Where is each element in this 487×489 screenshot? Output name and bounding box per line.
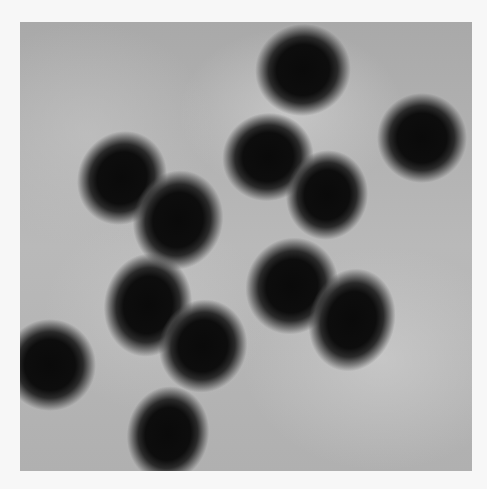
- particle: [377, 93, 467, 183]
- particle: [245, 22, 362, 127]
- particle: [119, 380, 216, 471]
- particle: [20, 319, 96, 411]
- micrograph-image: [20, 22, 472, 471]
